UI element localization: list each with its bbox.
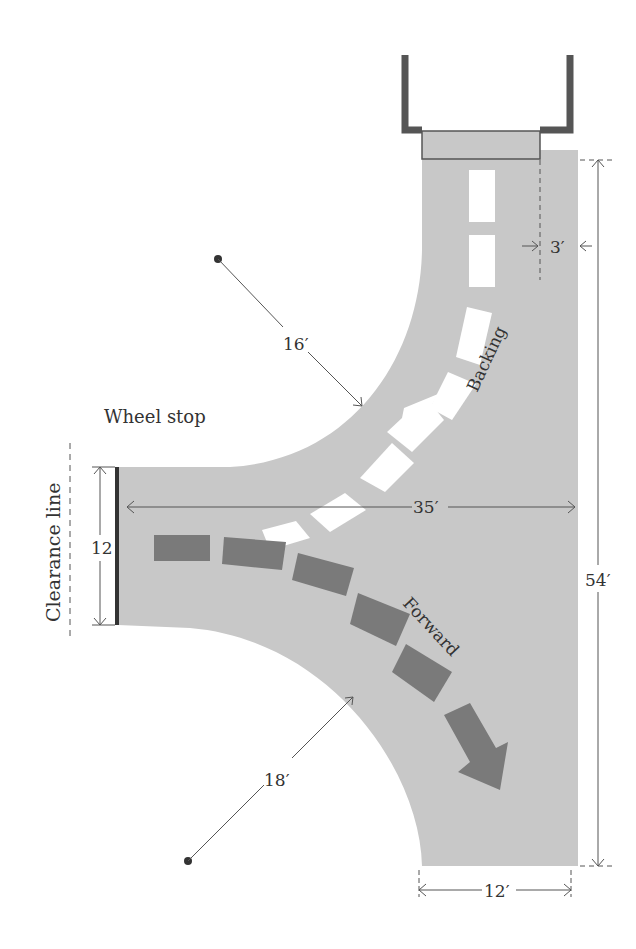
garage — [405, 55, 570, 159]
dimension-stall-width-label: 12 — [91, 538, 113, 558]
dimension-12ft: 12′ — [419, 870, 571, 901]
dimension-3ft-label: 3′ — [550, 237, 565, 257]
garage-door-apron — [422, 131, 540, 159]
radius-18ft-label: 18′ — [264, 770, 290, 790]
dimension-54ft: 54′ — [580, 160, 612, 866]
clearance-line-label: Clearance line — [42, 483, 64, 622]
radius-16ft: 16′ — [214, 255, 362, 406]
radius-16ft-label: 16′ — [283, 334, 309, 354]
radius-18ft: 18′ — [184, 697, 353, 865]
turnaround-diagram: 3′ Wheel stop Clearance line 12 — [0, 0, 636, 949]
dimension-54ft-label: 54′ — [585, 570, 611, 590]
garage-door-opening — [424, 123, 538, 130]
dimension-stall-width: 12 — [90, 467, 115, 625]
wheel-stop-label: Wheel stop — [104, 406, 206, 427]
dimension-35ft-label: 35′ — [413, 497, 439, 517]
dimension-12ft-label: 12′ — [484, 881, 510, 901]
